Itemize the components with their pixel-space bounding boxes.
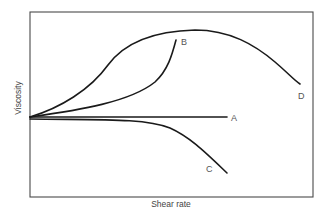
curve-b bbox=[30, 40, 176, 117]
x-axis-label: Shear rate bbox=[151, 199, 191, 209]
plot-frame bbox=[30, 12, 313, 197]
curve-label-c: C bbox=[206, 164, 213, 174]
curve-d bbox=[30, 30, 300, 117]
viscosity-shear-rate-diagram: A B C D Shear rate Viscosity bbox=[0, 0, 330, 216]
curve-c bbox=[30, 119, 227, 173]
curve-label-b: B bbox=[181, 37, 187, 47]
curve-label-a: A bbox=[231, 113, 237, 123]
curve-label-d: D bbox=[298, 91, 305, 101]
y-axis-label: Viscosity bbox=[13, 81, 23, 115]
